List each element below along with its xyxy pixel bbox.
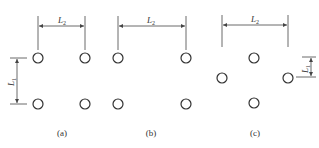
hole-circle [80,99,90,109]
hole-circle [80,53,90,63]
hole-circle [33,53,43,63]
dimension-label-l1: L1 [300,65,311,74]
hole-circle [33,99,43,109]
caption-a: (a) [57,128,67,138]
dimension-label-l2: L2 [57,15,66,26]
diagram-c: L2 L1 (c) [217,14,316,138]
hole-pattern-diagram: L2 L1 (a) L2 (b) L2 [0,0,319,148]
hole-circle [283,73,293,83]
caption-c: (c) [250,128,260,138]
diagram-a: L2 L1 (a) [6,15,90,138]
hole-circle [113,99,123,109]
dimension-label-l2: L2 [250,14,259,25]
hole-circle [249,98,259,108]
dimension-label-l1: L1 [6,78,17,87]
hole-circle [181,53,191,63]
hole-circle [113,53,123,63]
diagram-b: L2 (b) [113,15,191,138]
caption-b: (b) [146,128,157,138]
hole-circle [249,53,259,63]
hole-circle [217,73,227,83]
hole-circle [181,99,191,109]
dimension-label-l2: L2 [146,15,155,26]
